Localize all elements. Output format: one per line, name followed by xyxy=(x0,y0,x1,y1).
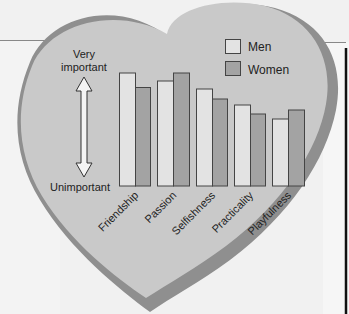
bar-practicality-women xyxy=(251,114,266,186)
bar-passion-men xyxy=(158,81,174,186)
bar-friendship-women xyxy=(136,88,151,187)
bar-friendship-men xyxy=(120,73,136,186)
bar-selfishness-women xyxy=(213,99,228,186)
legend-swatch-women xyxy=(226,62,241,76)
axis-bottom-label: Unimportant xyxy=(50,181,110,193)
axis-top-label-line1: Very xyxy=(73,48,96,60)
bar-passion-women xyxy=(174,73,190,186)
legend-label-men: Men xyxy=(248,40,271,54)
legend-swatch-men xyxy=(226,40,241,54)
bar-playfulness-men xyxy=(273,119,289,186)
legend-label-women: Women xyxy=(248,63,289,77)
axis-top-label-line2: important xyxy=(61,61,107,73)
chart-figure: Very important Unimportant Men Women Fri… xyxy=(0,0,349,314)
bar-practicality-men xyxy=(235,105,251,186)
bar-playfulness-women xyxy=(289,110,305,186)
bar-selfishness-men xyxy=(197,89,213,186)
